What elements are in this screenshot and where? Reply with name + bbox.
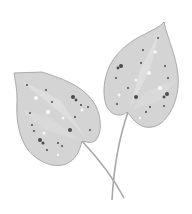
right-leaf-stem [112, 112, 128, 200]
left-leaf [14, 72, 100, 165]
leaves-illustration [0, 0, 192, 214]
right-leaf [104, 22, 178, 127]
